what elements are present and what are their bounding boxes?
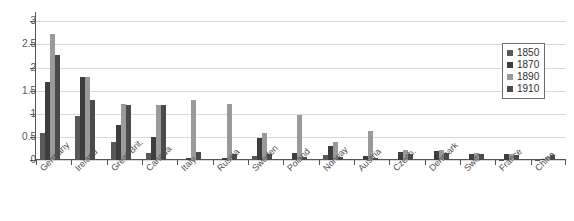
bar-group bbox=[425, 12, 460, 160]
legend-swatch-icon bbox=[507, 86, 513, 92]
legend-label: 1870 bbox=[517, 59, 539, 71]
legend-item[interactable]: 1910 bbox=[507, 83, 539, 95]
bar bbox=[191, 100, 196, 160]
bar-group bbox=[36, 12, 71, 160]
legend-item[interactable]: 1890 bbox=[507, 71, 539, 83]
x-axis-label-cell: Sweden bbox=[248, 164, 283, 220]
legend-swatch-icon bbox=[507, 74, 513, 80]
x-axis-label-cell: Austria bbox=[354, 164, 389, 220]
x-axis-label-cell: Czech. bbox=[389, 164, 424, 220]
x-axis-label-cell: Canada bbox=[142, 164, 177, 220]
x-axis-label-cell: Russia bbox=[213, 164, 248, 220]
legend-swatch-icon bbox=[507, 62, 513, 68]
bar-group bbox=[213, 12, 248, 160]
x-axis-label-cell: Switz. bbox=[460, 164, 495, 220]
grouped-bar-chart: 00.511.522.53 GermanyIrelandGreat Brit.C… bbox=[0, 0, 574, 221]
x-axis-label-cell: Norway bbox=[319, 164, 354, 220]
x-axis-label-cell: Poland bbox=[283, 164, 318, 220]
x-axis-label-cell: Great Brit. bbox=[107, 164, 142, 220]
x-axis-label-cell: Italy bbox=[177, 164, 212, 220]
bar-group bbox=[283, 12, 318, 160]
bar-group bbox=[142, 12, 177, 160]
x-axis-label-cell: Denmark bbox=[425, 164, 460, 220]
legend-item[interactable]: 1870 bbox=[507, 59, 539, 71]
x-axis-label-cell: France bbox=[495, 164, 530, 220]
bar-group bbox=[460, 12, 495, 160]
legend-item[interactable]: 1850 bbox=[507, 47, 539, 59]
legend-label: 1850 bbox=[517, 47, 539, 59]
x-axis-label-cell: Germany bbox=[36, 164, 71, 220]
legend-label: 1890 bbox=[517, 71, 539, 83]
chart-legend: 1850187018901910 bbox=[502, 43, 545, 99]
bar-groups bbox=[36, 12, 566, 160]
bar-group bbox=[248, 12, 283, 160]
bar-group bbox=[71, 12, 106, 160]
x-axis-label-cell: China bbox=[531, 164, 566, 220]
legend-label: 1910 bbox=[517, 83, 539, 95]
bar-group bbox=[354, 12, 389, 160]
bar-group bbox=[389, 12, 424, 160]
bar bbox=[196, 152, 201, 160]
bar-group bbox=[319, 12, 354, 160]
legend-swatch-icon bbox=[507, 50, 513, 56]
bar-group bbox=[177, 12, 212, 160]
x-axis-label-cell: Ireland bbox=[71, 164, 106, 220]
x-axis-labels: GermanyIrelandGreat Brit.CanadaItalyRuss… bbox=[36, 164, 566, 220]
